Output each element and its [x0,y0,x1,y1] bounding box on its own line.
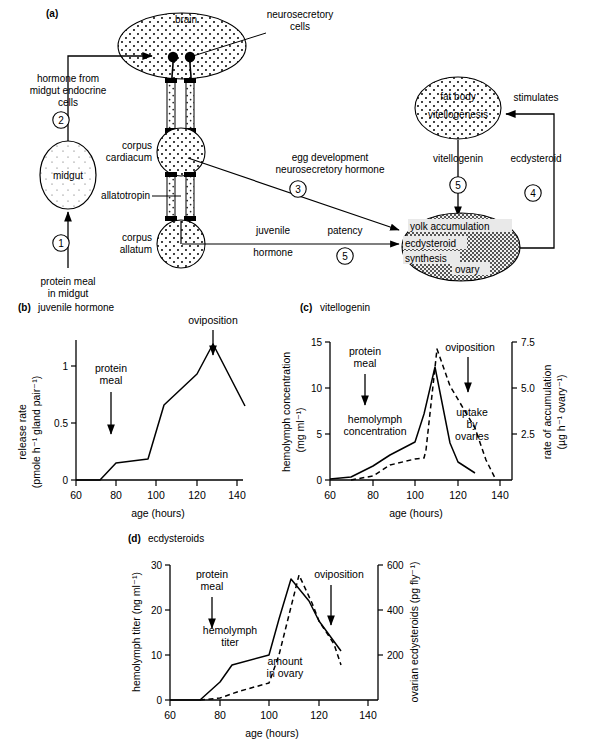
panel-d-label: (d) [128,533,141,544]
panel-d-annot-hemolymph-line2: titer [221,636,239,648]
panel-d-annot-amount-line1: amount [267,655,302,667]
panel-d-annot-amount-line2: in ovary [267,667,305,679]
panel-d-ytick-label-30: 30 [151,560,163,571]
panel-d-ytick-label-10: 10 [151,650,163,661]
panel-d-annot-oviposition: oviposition [314,568,364,580]
panel-d-xtick-label-80: 80 [214,709,226,721]
panel-d-annot-protein-meal-line2: meal [201,580,224,592]
panel-d-ytick-label-right-600: 600 [387,560,404,571]
panel-d-xtick-label-60: 60 [164,709,176,721]
panel-d-annot-hemolymph-line1: hemolymph [203,624,257,636]
panel-d-title: ecdysteroids [148,533,204,544]
panel-d-series-hemolymph-titer [170,579,341,700]
panel-d-ytick-label-20: 20 [151,605,163,616]
panel-d-ylabel-right: ovarian ecdysteroids (pg fly⁻¹) [408,562,420,703]
panel-d-xtick-label-100: 100 [260,709,278,721]
panel-d-chart: (d) ecdysteroids 0 10 20 30 200 400 600 … [0,0,592,742]
panel-d-xlabel: age (hours) [245,727,299,739]
panel-d-ytick-label-0: 0 [156,695,162,706]
panel-d-annot-protein-meal-line1: protein [196,568,228,580]
panel-d-ytick-label-right-200: 200 [387,650,404,661]
panel-d-xtick-label-140: 140 [359,709,377,721]
figure-root: (a) brain neurosecretory cells corpus ca… [0,0,592,742]
panel-d-ylabel-left: hemolymph titer (ng ml⁻¹) [130,572,142,692]
panel-d-ytick-label-right-400: 400 [387,605,404,616]
panel-d-xtick-label-120: 120 [310,709,328,721]
